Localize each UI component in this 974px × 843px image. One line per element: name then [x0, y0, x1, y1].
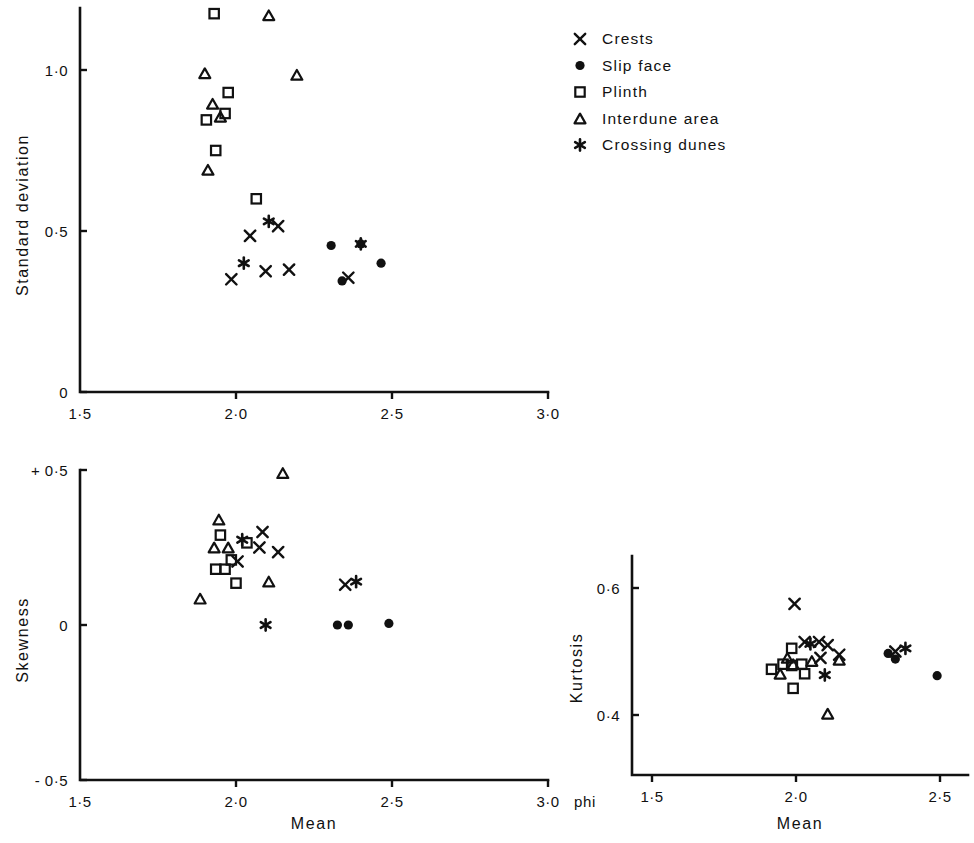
data-point — [384, 619, 393, 628]
open-square-marker — [575, 87, 584, 96]
axis-lines — [80, 470, 548, 780]
data-point — [224, 88, 233, 97]
data-point — [216, 530, 225, 539]
data-points-kurtosis-vs-mean — [767, 599, 942, 719]
marker-core — [809, 642, 813, 646]
data-point — [199, 68, 210, 78]
marker-core — [267, 219, 271, 223]
marker-core — [240, 538, 244, 542]
series-crests — [232, 527, 350, 590]
data-point — [333, 620, 342, 629]
data-point — [901, 643, 911, 654]
data-point — [209, 9, 218, 18]
data-point — [284, 264, 294, 274]
data-point — [220, 565, 229, 574]
data-point — [291, 70, 302, 80]
data-point — [822, 709, 833, 719]
data-point — [273, 547, 283, 557]
y-tick-label: 0·5 — [45, 223, 68, 240]
data-point — [834, 655, 845, 665]
x-tick-label: 2·5 — [380, 793, 403, 810]
legend-item-slip-face: Slip face — [575, 57, 672, 74]
data-point — [211, 565, 220, 574]
data-point — [806, 656, 817, 666]
legend-item-plinth: Plinth — [575, 83, 648, 100]
data-point — [351, 576, 361, 587]
series-interdune-area — [775, 653, 845, 719]
data-point — [261, 619, 271, 630]
y-axis-title: Kurtosis — [568, 633, 585, 704]
data-point — [344, 620, 353, 629]
data-point — [337, 276, 346, 285]
data-point — [800, 669, 809, 678]
data-point — [277, 468, 288, 478]
data-point — [263, 577, 274, 587]
data-point — [254, 542, 264, 552]
legend-label: Slip face — [602, 57, 672, 74]
x-axis-title: Mean — [291, 815, 337, 832]
data-point — [245, 231, 255, 241]
x-tick-label: 2·0 — [224, 405, 247, 422]
data-point — [237, 534, 247, 545]
chart-kurtosis-vs-mean: 1·52·02·50·40·6KurtosisMean — [568, 556, 968, 832]
marker-core — [242, 261, 246, 265]
figure-canvas: 1·52·02·53·000·51·0Standard deviation1·5… — [0, 0, 974, 843]
legend-item-crossing-dunes: Crossing dunes — [575, 136, 726, 153]
y-tick-label: 1·0 — [45, 62, 68, 79]
y-axis-title: Skewness — [14, 597, 31, 683]
chart-standard-deviation-vs-mean: 1·52·02·53·000·51·0Standard deviation — [14, 8, 560, 422]
data-point — [340, 580, 350, 590]
y-tick-label: 0·6 — [597, 580, 620, 597]
data-point — [207, 99, 218, 109]
data-point — [820, 669, 830, 680]
series-crests — [226, 221, 353, 285]
data-point — [767, 665, 776, 674]
cross-x-marker — [575, 34, 585, 44]
data-point — [257, 527, 267, 537]
data-point — [260, 266, 270, 276]
axis-lines — [80, 8, 548, 392]
data-point — [226, 274, 236, 284]
phi-unit-label: phi — [574, 793, 596, 810]
data-point — [223, 543, 234, 553]
data-point — [209, 543, 220, 553]
legend-label: Interdune area — [602, 110, 720, 127]
scatter-figure: 1·52·02·53·000·51·0Standard deviation1·5… — [0, 0, 974, 843]
data-point — [263, 10, 274, 20]
marker-core — [904, 646, 908, 650]
series-slip-face — [333, 619, 394, 630]
x-tick-label: 3·0 — [536, 405, 559, 422]
axis-lines — [632, 556, 968, 775]
y-tick-label: 0·4 — [597, 707, 620, 724]
legend-label: Plinth — [602, 83, 648, 100]
marker-core — [354, 580, 358, 584]
data-point — [789, 599, 799, 609]
data-point — [891, 655, 900, 664]
x-tick-label: 1·5 — [640, 788, 663, 805]
data-point — [231, 578, 240, 587]
data-point — [788, 684, 797, 693]
x-tick-label: 1·5 — [68, 405, 91, 422]
y-tick-label: 0 — [59, 384, 68, 401]
series-interdune-area — [199, 10, 302, 174]
x-tick-label: 2·5 — [928, 788, 951, 805]
y-tick-label: 0 — [59, 617, 68, 634]
x-tick-label: 2·0 — [224, 793, 247, 810]
x-axis-title: Mean — [777, 815, 823, 832]
data-point — [202, 115, 211, 124]
asterisk-marker — [575, 139, 585, 150]
x-tick-label: 2·5 — [380, 405, 403, 422]
marker-core — [578, 143, 582, 147]
data-point — [376, 259, 385, 268]
x-tick-label: 1·5 — [68, 793, 91, 810]
legend: CrestsSlip facePlinthInterdune areaCross… — [575, 30, 727, 153]
data-points-skewness-vs-mean — [195, 468, 394, 630]
data-point — [211, 146, 220, 155]
data-point — [787, 644, 796, 653]
y-tick-label: + 0·5 — [31, 462, 68, 479]
y-axis-title: Standard deviation — [14, 134, 31, 296]
data-point — [884, 649, 893, 658]
data-points-standard-deviation-vs-mean — [199, 9, 385, 286]
data-point — [252, 194, 261, 203]
data-point — [327, 241, 336, 250]
